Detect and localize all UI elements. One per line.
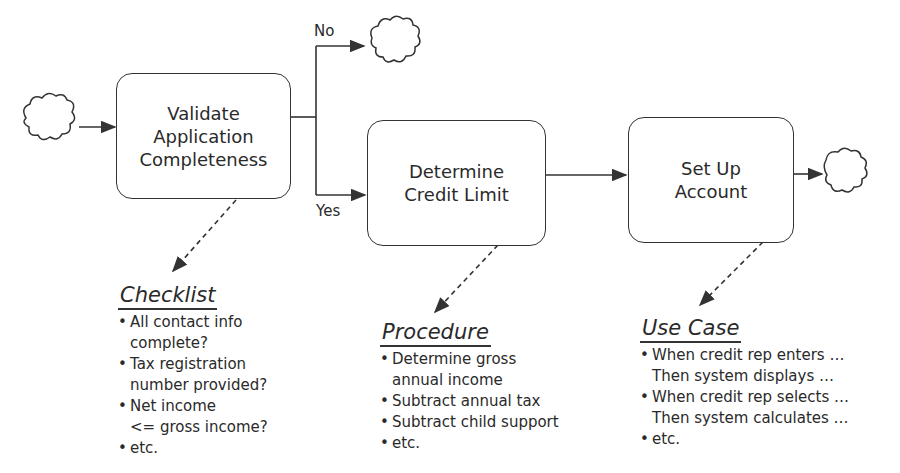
list-item: Net income<= gross income? <box>118 396 268 438</box>
step-label-line: Determine <box>404 160 508 183</box>
step-determine-credit-limit: Determine Credit Limit <box>367 120 546 246</box>
step-label-line: Validate <box>140 102 268 125</box>
list-item: Tax registrationnumber provided? <box>118 354 268 396</box>
list-item: etc. <box>118 438 268 459</box>
rejected-end-cloud-icon <box>371 16 420 62</box>
branch-label-no: No <box>314 22 334 40</box>
step-validate-application-completeness: Validate Application Completeness <box>116 73 291 199</box>
start-cloud-icon <box>24 93 75 139</box>
note-title: Checklist <box>118 283 217 310</box>
step-label-line: Account <box>675 180 748 203</box>
note-title: Use Case <box>640 316 741 343</box>
step-set-up-account: Set Up Account <box>628 117 794 243</box>
end-cloud-icon <box>824 148 867 192</box>
list-item: All contact infocomplete? <box>118 312 268 354</box>
list-item: etc. <box>640 429 849 450</box>
list-item: When credit rep selects …Then system cal… <box>640 387 849 429</box>
list-item: Subtract annual tax <box>380 391 559 412</box>
note-use-case: Use Case When credit rep enters …Then sy… <box>640 316 849 450</box>
list-item: When credit rep enters …Then system disp… <box>640 345 849 387</box>
note-checklist: Checklist All contact infocomplete? Tax … <box>118 283 268 459</box>
branch-label-yes: Yes <box>316 202 340 220</box>
note-title: Procedure <box>380 320 491 347</box>
step-label-line: Set Up <box>675 157 748 180</box>
list-item: etc. <box>380 433 559 454</box>
list-item: Determine grossannual income <box>380 349 559 391</box>
step-label-line: Application <box>140 125 268 148</box>
step-label-line: Completeness <box>140 148 268 171</box>
note-procedure: Procedure Determine grossannual income S… <box>380 320 559 454</box>
step-label-line: Credit Limit <box>404 183 508 206</box>
list-item: Subtract child support <box>380 412 559 433</box>
